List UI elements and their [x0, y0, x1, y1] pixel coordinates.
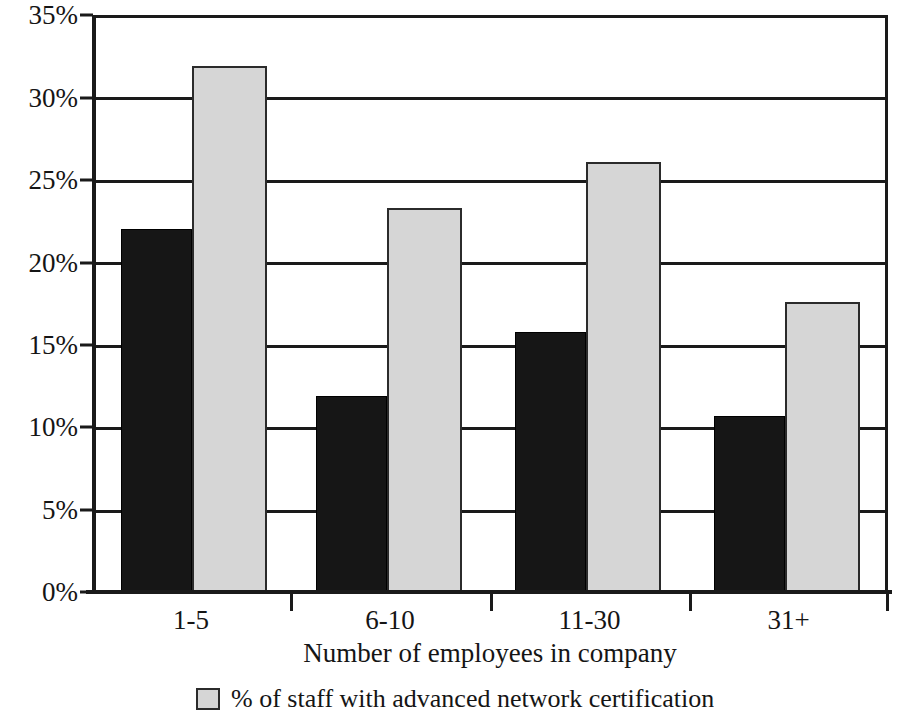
y-axis-tick-label: 35%: [0, 2, 78, 29]
y-axis-tick-label: 25%: [0, 167, 78, 194]
bar-light-31-plus: [785, 302, 860, 592]
x-axis-title: Number of employees in company: [92, 638, 888, 669]
x-axis-category-label: 31+: [689, 598, 888, 642]
y-axis-tick-label: 15%: [0, 331, 78, 358]
y-axis-tick-label: 0%: [0, 579, 78, 606]
y-axis-tick-label: 30%: [0, 84, 78, 111]
x-axis-category-labels: 1-5 6-10 11-30 31+: [92, 598, 888, 642]
bar-chart: 0% 5% 10% 15% 20% 25% 30% 35%: [0, 0, 903, 711]
bar-dark-11-30: [515, 332, 586, 593]
plot-area: [92, 15, 888, 592]
y-axis-tick-label: 10%: [0, 414, 78, 441]
bar-light-1-5: [192, 66, 267, 592]
legend-swatch-light: [196, 688, 220, 710]
bar-dark-1-5: [121, 229, 192, 592]
x-axis-category-label: 6-10: [290, 598, 490, 642]
bar-dark-31-plus: [714, 416, 785, 592]
bar-dark-6-10: [316, 396, 387, 592]
bars-layer: [96, 15, 885, 592]
y-axis-tick-label: 5%: [0, 496, 78, 523]
x-axis-category-label: 11-30: [490, 598, 689, 642]
bar-light-6-10: [387, 208, 462, 592]
bar-light-11-30: [586, 162, 661, 592]
y-axis-tick-labels: 0% 5% 10% 15% 20% 25% 30% 35%: [0, 0, 78, 620]
x-axis-category-label: 1-5: [92, 598, 290, 642]
y-axis-tick-label: 20%: [0, 249, 78, 276]
legend-label: % of staff with advanced network certifi…: [231, 686, 714, 711]
x-axis-baseline: [86, 590, 892, 594]
legend: % of staff with advanced network certifi…: [196, 686, 714, 711]
